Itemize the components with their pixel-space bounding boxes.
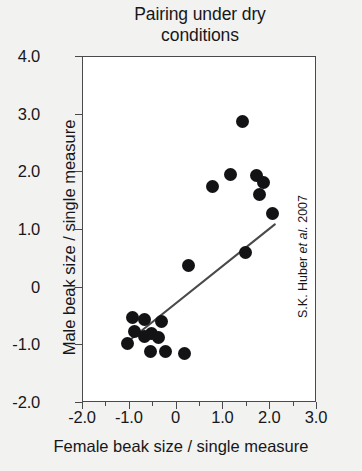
- x-axis-tick-label: 2.0: [258, 408, 280, 427]
- x-axis-minor-tick: [152, 402, 153, 406]
- page-title: Pairing under dry conditions: [60, 4, 340, 45]
- x-axis-tick-label: -2.0: [68, 408, 96, 427]
- x-axis-minor-tick: [199, 402, 200, 406]
- y-axis-tick-label: -2.0: [12, 393, 40, 412]
- y-axis-tick-label: 4.0: [18, 47, 40, 66]
- x-axis-minor-tick: [293, 402, 294, 406]
- x-axis-tick-label: 3.0: [305, 408, 327, 427]
- x-axis-minor-tick: [105, 402, 106, 406]
- chart-title-line-2: conditions: [60, 25, 340, 46]
- source-credit: S.K. Huber et al. 2007: [296, 195, 310, 318]
- x-axis-title: Female beak size / single measure: [0, 437, 362, 456]
- y-axis-title: Male beak size / single measure: [60, 73, 79, 403]
- y-axis-tick-label: 0: [31, 277, 40, 296]
- y-axis-tick-label: -1.0: [12, 335, 40, 354]
- x-axis-tick-label: -1.0: [115, 408, 143, 427]
- chart-figure: Pairing under dry conditions -2.0-1.001.…: [0, 0, 362, 471]
- x-axis-tick-label: 1.0: [211, 408, 233, 427]
- x-axis-minor-tick: [246, 402, 247, 406]
- y-axis-tick: [75, 56, 82, 57]
- credit-etal: et al.: [296, 226, 310, 253]
- credit-prefix: S.K. Huber: [296, 253, 310, 318]
- plot-frame: [82, 56, 316, 402]
- credit-suffix: 2007: [296, 195, 310, 226]
- chart-title-line-1: Pairing under dry: [60, 4, 340, 25]
- y-axis-tick-label: 1.0: [18, 220, 40, 239]
- y-axis-tick-label: 3.0: [18, 104, 40, 123]
- y-axis-tick-label: 2.0: [18, 162, 40, 181]
- x-axis-tick-label: 0: [171, 408, 180, 427]
